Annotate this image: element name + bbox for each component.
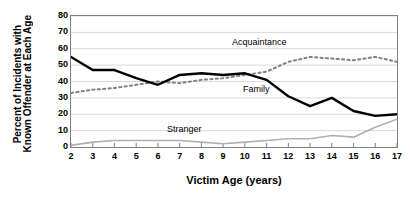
y-tick-label: 30 [44, 92, 68, 101]
x-axis-tick-labels: 234567891011121314151617 [70, 152, 398, 166]
x-tick-label: 2 [61, 152, 81, 161]
y-tick-label: 0 [44, 142, 68, 151]
x-tick-label: 7 [170, 152, 190, 161]
x-axis-title: Victim Age (years) [70, 174, 398, 186]
x-tick-label: 9 [213, 152, 233, 161]
series-label-acquaintance: Acquaintance [232, 38, 287, 47]
y-tick-label: 80 [44, 11, 68, 20]
series-line-stranger [71, 119, 397, 145]
y-axis-title: Percent of Incidents with Known Offender… [0, 0, 46, 168]
x-tick-label: 6 [148, 152, 168, 161]
y-axis-tick-labels: 01020304050607080 [44, 10, 68, 150]
y-tick-label: 70 [44, 27, 68, 36]
y-tick-label: 20 [44, 109, 68, 118]
x-tick-label: 10 [235, 152, 255, 161]
x-tick-label: 5 [126, 152, 146, 161]
x-tick-label: 3 [83, 152, 103, 161]
y-tick-label: 60 [44, 43, 68, 52]
y-tick-label: 40 [44, 76, 68, 85]
y-tick-label: 10 [44, 125, 68, 134]
x-tick-label: 11 [257, 152, 277, 161]
plot-area: Acquaintance Family Stranger [70, 15, 398, 148]
series-label-family: Family [243, 85, 270, 94]
x-tick-label: 13 [300, 152, 320, 161]
series-label-stranger: Stranger [167, 125, 202, 134]
x-tick-label: 4 [104, 152, 124, 161]
x-tick-label: 14 [322, 152, 342, 161]
x-tick-label: 17 [387, 152, 407, 161]
y-axis-title-line-2: Known Offender at Each Age [23, 15, 33, 152]
y-tick-label: 50 [44, 60, 68, 69]
chart-container: Percent of Incidents with Known Offender… [0, 0, 410, 200]
x-tick-label: 12 [278, 152, 298, 161]
x-tick-label: 8 [191, 152, 211, 161]
x-tick-label: 16 [365, 152, 385, 161]
plot-svg [71, 16, 397, 147]
x-tick-label: 15 [344, 152, 364, 161]
